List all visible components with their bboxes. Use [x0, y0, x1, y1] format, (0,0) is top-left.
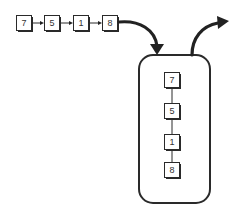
pop-arrow-icon: [192, 16, 229, 55]
node-label: 1: [169, 137, 174, 147]
node-label: 1: [78, 18, 83, 28]
arrowhead-icon: [98, 21, 102, 25]
stack-node: 1: [165, 135, 182, 152]
node-label: 8: [107, 18, 112, 28]
node-label: 7: [21, 18, 26, 28]
stack-node: 7: [165, 73, 182, 90]
node-label: 8: [169, 165, 174, 175]
stack-node: 8: [165, 163, 182, 180]
node-label: 5: [169, 106, 174, 116]
arrowhead-icon: [40, 21, 44, 25]
queue-node: 5: [45, 16, 62, 33]
arrowhead-icon: [69, 21, 73, 25]
node-label: 7: [169, 75, 174, 85]
node-label: 5: [49, 18, 54, 28]
queue-links: [32, 21, 102, 25]
queue-node: 8: [103, 16, 120, 33]
queue-node: 1: [74, 16, 91, 33]
diagram-canvas: 7 5 1 8: [0, 0, 237, 213]
stack-node: 5: [165, 104, 182, 121]
queue-node: 7: [17, 16, 34, 33]
push-arrow-icon: [119, 22, 164, 55]
queue-nodes: 7 5 1 8: [17, 16, 120, 33]
